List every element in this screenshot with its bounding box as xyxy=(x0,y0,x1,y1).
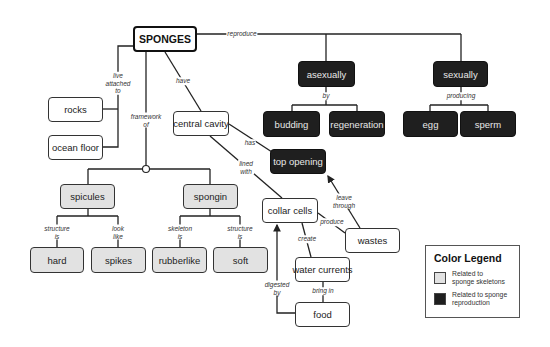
legend-item-reproduction: Related to sponge reproduction xyxy=(434,291,511,306)
link-label-leave-through: leave through xyxy=(332,194,356,209)
link-label-skeleton-is: skeleton is xyxy=(167,225,193,240)
node-ocean-floor[interactable]: ocean floor xyxy=(48,135,103,160)
node-sponges[interactable]: SPONGES xyxy=(133,26,197,52)
link-label-have: have xyxy=(175,77,191,85)
node-spongin[interactable]: spongin xyxy=(183,184,238,209)
node-asexually[interactable]: asexually xyxy=(298,61,355,87)
legend-item-skeletons: Related to sponge skeletons xyxy=(434,270,511,285)
node-rocks[interactable]: rocks xyxy=(48,97,103,122)
link-label-digested-by: digested by xyxy=(264,281,291,296)
link-label-has: has xyxy=(244,139,256,147)
legend-title: Color Legend xyxy=(434,252,511,264)
legend-swatch-light xyxy=(434,272,446,284)
legend-label-reproduction: Related to sponge reproduction xyxy=(452,291,507,306)
node-budding[interactable]: budding xyxy=(263,111,320,137)
node-sexually[interactable]: sexually xyxy=(433,61,488,87)
node-water-currents[interactable]: water currents xyxy=(295,257,350,282)
node-spikes[interactable]: spikes xyxy=(91,247,146,273)
link-label-live-attached-to: live attached to xyxy=(105,72,132,95)
node-rubberlike[interactable]: rubberlike xyxy=(152,247,207,273)
node-collar-cells[interactable]: collar cells xyxy=(262,198,318,223)
node-food[interactable]: food xyxy=(295,302,350,327)
node-egg[interactable]: egg xyxy=(403,111,458,137)
link-label-produce: produce xyxy=(319,218,345,226)
link-label-lined-with: lined with xyxy=(238,160,254,175)
legend-swatch-dark xyxy=(434,293,446,305)
link-label-structure-is-2: structure is xyxy=(226,225,253,240)
node-sperm[interactable]: sperm xyxy=(460,111,516,137)
node-spicules[interactable]: spicules xyxy=(60,184,115,209)
link-label-structure-is: structure is xyxy=(43,225,70,240)
node-top-opening[interactable]: top opening xyxy=(270,149,326,174)
link-label-create: create xyxy=(297,235,317,243)
link-label-producing: producing xyxy=(446,92,477,100)
node-wastes[interactable]: wastes xyxy=(345,228,400,253)
color-legend: Color Legend Related to sponge skeletons… xyxy=(425,245,520,318)
link-label-framework-of: framework of xyxy=(130,113,162,128)
legend-label-skeletons: Related to sponge skeletons xyxy=(452,270,505,285)
link-label-bring-in: bring in xyxy=(311,287,334,295)
node-soft[interactable]: soft xyxy=(213,247,268,273)
link-label-look-like: look like xyxy=(111,225,125,240)
node-hard[interactable]: hard xyxy=(30,247,84,273)
link-label-reproduce: reproduce xyxy=(226,30,257,38)
node-central-cavity[interactable]: central cavity xyxy=(173,111,229,136)
node-regeneration[interactable]: regeneration xyxy=(329,111,385,137)
link-label-by: by xyxy=(322,92,331,100)
